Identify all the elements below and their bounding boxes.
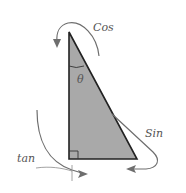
cos-arrowhead-icon bbox=[53, 39, 61, 48]
right-triangle bbox=[69, 32, 137, 159]
theta-label: θ bbox=[77, 73, 84, 86]
sin-label: Sin bbox=[145, 127, 163, 140]
tan-arrowhead-icon bbox=[78, 170, 88, 178]
tan-label: tan bbox=[17, 152, 35, 165]
cos-label: Cos bbox=[93, 21, 114, 34]
trig-triangle-diagram: θ Cos Sin tan bbox=[0, 0, 186, 193]
